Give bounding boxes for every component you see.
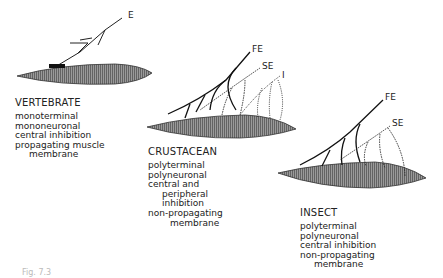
insect-title: INSECT (300, 208, 376, 218)
crustacean-line: membrane (148, 219, 223, 229)
vertebrate-muscle-fiber (17, 64, 152, 84)
nerve-label-se-insect: SE (392, 118, 403, 128)
nerve-label-fe-crustacean: FE (252, 44, 263, 54)
crustacean-description: CRUSTACEAN polyterminal polyneuronal cen… (148, 147, 223, 228)
insect-description: INSECT polyterminal polyneuronal central… (300, 208, 376, 270)
crustacean-muscle-fiber (147, 115, 296, 138)
nerve-label-e: E (128, 10, 134, 20)
vertebrate-description: VERTEBRATE monoterminal mononeuronal cen… (15, 98, 105, 160)
vertebrate-nerve (55, 18, 122, 67)
vertebrate-line: membrane (15, 150, 105, 160)
crustacean-title: CRUSTACEAN (148, 147, 223, 157)
nerve-label-fe-insect: FE (385, 92, 396, 102)
insect-fast-excitor (300, 100, 383, 166)
figure-caption: Fig. 7.3 (22, 268, 51, 277)
crustacean-inhibitor (240, 76, 283, 120)
vertebrate-title: VERTEBRATE (15, 98, 105, 108)
nerve-label-se-crustacean: SE (262, 61, 273, 71)
nerve-label-i-crustacean: I (282, 70, 285, 80)
crustacean-fast-excitor (168, 52, 250, 118)
vertebrate-endplate (49, 64, 65, 68)
insect-line: membrane (300, 260, 376, 270)
